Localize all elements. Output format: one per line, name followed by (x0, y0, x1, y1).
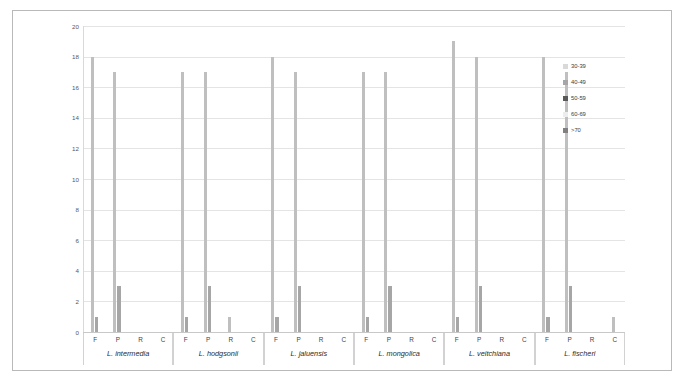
category-tick-label: C (427, 336, 441, 343)
category-tick-label: R (133, 336, 147, 343)
figure-container: 02468101214161820 FPRCL. intermediaFPRCL… (0, 0, 685, 382)
axis-group: FPRCL. mongolica (354, 333, 444, 365)
legend-swatch-icon (563, 112, 568, 117)
y-tick-label-2: 2 (57, 298, 79, 305)
bar (298, 286, 301, 332)
bar (185, 317, 188, 332)
bar (612, 317, 615, 332)
category-tick-label: F (179, 336, 193, 343)
y-tick-label-10: 10 (57, 176, 79, 183)
bar (228, 317, 231, 332)
species-label: L. jaluensis (265, 349, 353, 358)
y-tick-label-14: 14 (57, 114, 79, 121)
legend-item[interactable]: >70 (563, 122, 633, 138)
category-tick-label: R (314, 336, 328, 343)
category-tick-label: R (495, 336, 509, 343)
legend-label: 40-49 (571, 79, 586, 85)
category-tick-label: F (359, 336, 373, 343)
y-axis-line (83, 26, 84, 333)
legend-label: 60-69 (571, 111, 586, 117)
legend-item[interactable]: 60-69 (563, 106, 633, 122)
axis-group: FPRCL. veitchiana (444, 333, 534, 365)
category-tick-label: R (585, 336, 599, 343)
y-tick-label-8: 8 (57, 206, 79, 213)
y-axis-tick-labels: 02468101214161820 (53, 26, 79, 332)
bar (456, 317, 459, 332)
bar (204, 72, 207, 332)
y-tick-label-20: 20 (57, 23, 79, 30)
category-ticks: FPRC (445, 333, 533, 348)
bar (384, 72, 387, 332)
category-tick-label: C (608, 336, 622, 343)
bar (113, 72, 116, 332)
category-tick-label: C (156, 336, 170, 343)
y-tick-label-12: 12 (57, 145, 79, 152)
legend-label: 50-59 (571, 95, 586, 101)
category-ticks: FPRC (174, 333, 262, 348)
legend-swatch-icon (563, 80, 568, 85)
legend-swatch-icon (563, 128, 568, 133)
bar (569, 286, 572, 332)
category-tick-label: P (472, 336, 486, 343)
y-tick-label-6: 6 (57, 237, 79, 244)
category-ticks: FPRC (84, 333, 172, 348)
category-tick-label: P (111, 336, 125, 343)
legend-item[interactable]: 30-39 (563, 58, 633, 74)
category-axis: FPRCL. intermediaFPRCL. hodgsoniiFPRCL. … (83, 333, 625, 365)
category-tick-label: F (269, 336, 283, 343)
category-tick-label: P (201, 336, 215, 343)
category-tick-label: C (246, 336, 260, 343)
bar (294, 72, 297, 332)
bar (388, 286, 391, 332)
bar (475, 57, 478, 332)
y-tick-label-4: 4 (57, 267, 79, 274)
category-tick-label: P (382, 336, 396, 343)
axis-group: FPRCL. hodgsonii (173, 333, 263, 365)
category-ticks: FPRC (265, 333, 353, 348)
legend-swatch-icon (563, 96, 568, 101)
plot-area (83, 26, 625, 332)
bar (542, 57, 545, 332)
bar (95, 317, 98, 332)
bar (117, 286, 120, 332)
category-tick-label: C (337, 336, 351, 343)
category-tick-label: P (563, 336, 577, 343)
legend-label: >70 (571, 127, 581, 133)
bar (546, 317, 549, 332)
legend-label: 30-39 (571, 63, 586, 69)
y-tick-label-0: 0 (57, 329, 79, 336)
bar (91, 57, 94, 332)
category-tick-label: F (540, 336, 554, 343)
bar (452, 41, 455, 332)
category-tick-label: R (224, 336, 238, 343)
chart-legend: 30-3940-4950-5960-69>70 (563, 58, 633, 138)
bar (208, 286, 211, 332)
y-tick-label-18: 18 (57, 53, 79, 60)
category-tick-label: F (450, 336, 464, 343)
bar (366, 317, 369, 332)
legend-swatch-icon (563, 64, 568, 69)
bar (275, 317, 278, 332)
bar (362, 72, 365, 332)
gridline-20 (83, 26, 625, 27)
legend-item[interactable]: 40-49 (563, 74, 633, 90)
legend-item[interactable]: 50-59 (563, 90, 633, 106)
bar (181, 72, 184, 332)
category-ticks: FPRC (355, 333, 443, 348)
species-label: L. intermedia (84, 349, 172, 358)
species-label: L. hodgsonii (174, 349, 262, 358)
bar (271, 57, 274, 332)
bar (479, 286, 482, 332)
category-ticks: FPRC (536, 333, 624, 348)
axis-group: FPRCL. intermedia (83, 333, 173, 365)
category-tick-label: F (88, 336, 102, 343)
species-label: L. fischeri (536, 349, 624, 358)
category-tick-label: P (292, 336, 306, 343)
axis-group: FPRCL. jaluensis (264, 333, 354, 365)
species-label: L. veitchiana (445, 349, 533, 358)
category-tick-label: C (517, 336, 531, 343)
axis-group: FPRCL. fischeri (535, 333, 625, 365)
species-label: L. mongolica (355, 349, 443, 358)
category-tick-label: R (404, 336, 418, 343)
y-tick-label-16: 16 (57, 84, 79, 91)
